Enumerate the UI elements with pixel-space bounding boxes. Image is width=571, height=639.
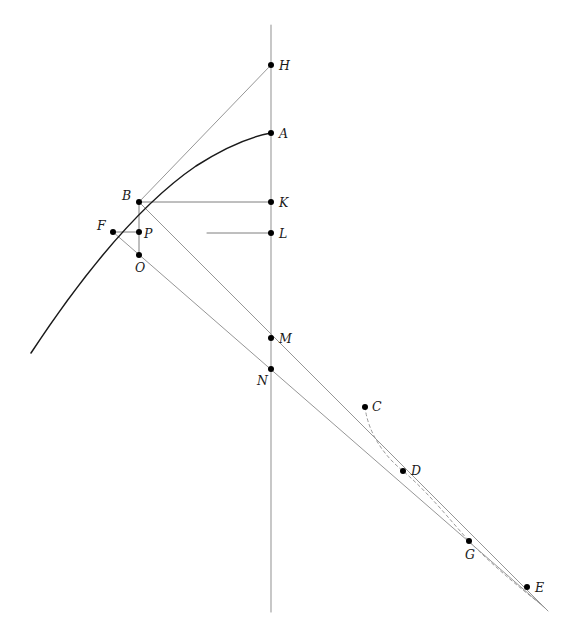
tangent-b-to-h bbox=[139, 65, 271, 202]
point-o[interactable] bbox=[136, 252, 142, 258]
geometry-diagram-canvas: HABKFPLOMNCDGE bbox=[0, 0, 571, 639]
point-n[interactable] bbox=[268, 366, 274, 372]
point-label-f: F bbox=[97, 220, 106, 233]
point-m[interactable] bbox=[268, 335, 274, 341]
point-label-h: H bbox=[279, 60, 290, 73]
points-group bbox=[110, 62, 530, 590]
point-l[interactable] bbox=[268, 230, 274, 236]
geometry-svg-layer bbox=[0, 0, 571, 639]
point-label-o: O bbox=[135, 262, 145, 275]
point-label-d: D bbox=[411, 465, 421, 478]
point-label-a: A bbox=[279, 128, 288, 141]
point-label-n: N bbox=[257, 375, 268, 388]
dashed-arc-c-to-g bbox=[365, 407, 543, 606]
ray-b-through-m bbox=[139, 202, 548, 611]
point-label-l: L bbox=[279, 228, 287, 241]
point-k[interactable] bbox=[268, 199, 274, 205]
point-b[interactable] bbox=[136, 199, 142, 205]
point-label-b: B bbox=[122, 190, 131, 203]
segments-group bbox=[113, 25, 548, 612]
point-c[interactable] bbox=[362, 404, 368, 410]
point-f[interactable] bbox=[110, 229, 116, 235]
point-label-k: K bbox=[279, 197, 288, 210]
point-d[interactable] bbox=[400, 468, 406, 474]
point-label-c: C bbox=[372, 401, 382, 414]
point-label-e: E bbox=[535, 582, 544, 595]
point-label-m: M bbox=[279, 333, 292, 346]
point-p[interactable] bbox=[136, 229, 142, 235]
point-e[interactable] bbox=[524, 584, 530, 590]
point-label-g: G bbox=[465, 549, 475, 562]
point-label-p: P bbox=[144, 228, 152, 241]
point-a[interactable] bbox=[268, 130, 274, 136]
point-h[interactable] bbox=[268, 62, 274, 68]
point-g[interactable] bbox=[466, 538, 472, 544]
main-parabola bbox=[31, 133, 271, 353]
